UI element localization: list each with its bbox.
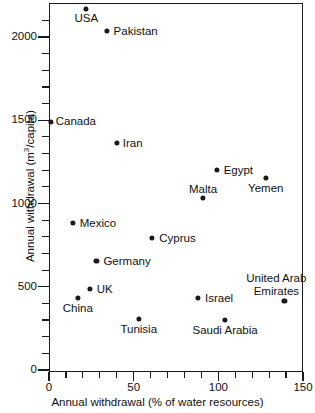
y-axis-minor-tick: [42, 53, 49, 54]
x-axis-minor-tick: [65, 372, 66, 378]
data-point-label: Israel: [205, 292, 233, 305]
scatter-chart: 0500100015002000050100150USAPakistanCana…: [0, 0, 315, 413]
y-axis-major-tick: [38, 286, 49, 287]
x-axis-major-tick: [48, 372, 49, 381]
y-axis-minor-tick: [42, 70, 49, 71]
y-axis-minor-tick: [42, 220, 49, 221]
y-axis-title: Annual withdrawal (m3/capita): [24, 71, 36, 301]
x-axis-minor-tick: [235, 372, 236, 378]
x-axis-minor-tick: [116, 372, 117, 378]
data-point-label: UK: [97, 283, 113, 296]
data-point-label: Cyprus: [159, 232, 195, 245]
y-axis-major-tick: [38, 369, 49, 370]
x-axis-minor-tick: [82, 372, 83, 378]
x-axis-minor-tick: [285, 372, 286, 378]
x-axis-major-tick: [302, 372, 303, 381]
x-axis-tick-label: 50: [127, 382, 140, 394]
y-axis-minor-tick: [42, 303, 49, 304]
y-axis-major-tick: [38, 203, 49, 204]
x-axis-minor-tick: [167, 372, 168, 378]
y-axis-minor-tick: [42, 270, 49, 271]
x-axis-tick-label: 100: [209, 382, 228, 394]
data-point-label: Tunisia: [120, 323, 157, 336]
data-point-label: China: [63, 302, 93, 315]
y-axis-minor-tick: [42, 103, 49, 104]
x-axis-minor-tick: [150, 372, 151, 378]
data-point-label: Iran: [123, 137, 143, 150]
y-axis-tick-label: 2000: [11, 31, 37, 43]
x-axis-tick-label: 150: [293, 382, 312, 394]
x-axis-minor-tick: [252, 372, 253, 378]
y-axis-minor-tick: [42, 186, 49, 187]
y-axis-tick-label: 0: [31, 364, 37, 376]
data-point-label: Malta: [189, 183, 217, 196]
data-point-label: Mexico: [80, 217, 116, 230]
y-axis-minor-tick: [42, 336, 49, 337]
data-point-label: Yemen: [248, 182, 283, 195]
y-axis-minor-tick: [42, 153, 49, 154]
y-axis-minor-tick: [42, 86, 49, 87]
y-axis-minor-tick: [42, 319, 49, 320]
y-axis-minor-tick: [42, 20, 49, 21]
data-point-label: USA: [74, 12, 98, 25]
y-axis-title-pre: Annual withdrawal (m: [24, 152, 36, 262]
data-point-label: Pakistan: [114, 25, 158, 38]
y-axis-title-post: /capita): [24, 110, 36, 148]
y-axis-minor-tick: [42, 353, 49, 354]
y-axis-minor-tick: [42, 253, 49, 254]
data-point-label: United Arab Emirates: [246, 272, 306, 297]
data-point-label: Canada: [56, 115, 96, 128]
y-axis-minor-tick: [42, 236, 49, 237]
data-point-label: Egypt: [224, 164, 253, 177]
x-axis-major-tick: [133, 372, 134, 381]
data-point-label: Saudi Arabia: [192, 324, 257, 337]
x-axis-minor-tick: [184, 372, 185, 378]
y-axis-minor-tick: [42, 170, 49, 171]
x-axis-tick-label: 0: [46, 382, 52, 394]
x-axis-minor-tick: [269, 372, 270, 378]
y-axis-title-exponent: 3: [22, 148, 31, 152]
data-point-label: Germany: [103, 255, 150, 268]
x-axis-major-tick: [218, 372, 219, 381]
x-axis-title: Annual withdrawal (% of water resources): [0, 396, 315, 408]
x-axis-minor-tick: [99, 372, 100, 378]
y-axis-minor-tick: [42, 136, 49, 137]
y-axis-major-tick: [38, 36, 49, 37]
x-axis-minor-tick: [201, 372, 202, 378]
